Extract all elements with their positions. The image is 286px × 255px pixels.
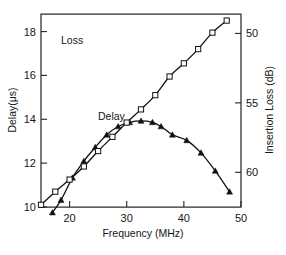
y-tick-label: 12	[24, 157, 36, 169]
data-point-delay	[138, 107, 143, 112]
y2-tick-label: 50	[246, 27, 258, 39]
x-axis-title: Frequency (MHz)	[102, 227, 183, 239]
data-point-delay	[81, 164, 86, 169]
y2-tick-label: 60	[246, 166, 258, 178]
chart-figure: 1012141618 505560 20304050 Loss Delay Fr…	[0, 0, 286, 255]
y2-axis-title: Insertion Loss (dB)	[263, 66, 275, 154]
chart-svg: 1012141618 505560 20304050 Loss Delay Fr…	[0, 0, 286, 255]
y-tick-label: 14	[24, 113, 36, 125]
x-tick-label: 20	[63, 212, 75, 224]
x-tick-label: 30	[121, 212, 133, 224]
x-tick-label: 50	[235, 212, 247, 224]
y2-tick-label: 55	[246, 97, 258, 109]
data-point-delay	[38, 202, 43, 207]
y-axis-title: Delay(μs)	[6, 87, 18, 132]
y-tick-label: 10	[24, 201, 36, 213]
data-point-delay	[153, 93, 158, 98]
series-label-loss: Loss	[61, 34, 83, 46]
y-tick-label: 18	[24, 26, 36, 38]
series-label-delay: Delay	[98, 110, 126, 122]
data-point-delay	[210, 30, 215, 35]
x-tick-label: 40	[178, 212, 190, 224]
data-point-delay	[67, 177, 72, 182]
data-point-delay	[181, 61, 186, 66]
data-point-delay	[124, 120, 129, 125]
data-point-delay	[96, 148, 101, 153]
data-point-delay	[196, 46, 201, 51]
data-point-delay	[167, 74, 172, 79]
data-point-delay	[110, 134, 115, 139]
data-point-delay	[224, 18, 229, 23]
y-tick-label: 16	[24, 69, 36, 81]
data-point-delay	[53, 189, 58, 194]
